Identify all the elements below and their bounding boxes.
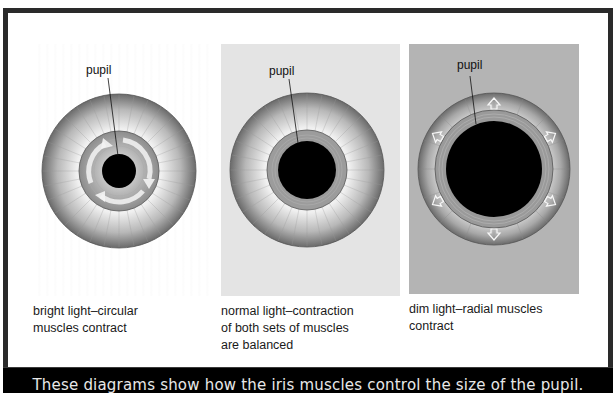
caption-bright-light: bright light–circular muscles contract (33, 303, 138, 337)
pupil-label: pupil (457, 58, 482, 72)
panel-normal-light: pupil (221, 44, 400, 296)
panel-bright-light: pupil (33, 44, 211, 296)
caption-bar: These diagrams show how the iris muscles… (3, 367, 613, 393)
eye-diagram-normal (221, 44, 400, 296)
pupil-label: pupil (86, 63, 111, 77)
figure-caption: These diagrams show how the iris muscles… (3, 376, 613, 393)
caption-normal-light: normal light–contraction of both sets of… (221, 303, 354, 354)
panel-dim-light: pupil (409, 44, 579, 294)
pupil-label: pupil (269, 64, 294, 78)
pupil-medium (278, 141, 336, 199)
eye-diagram-bright (33, 44, 211, 296)
caption-dim-light: dim light–radial muscles contract (409, 301, 542, 335)
pupil-large (446, 121, 542, 217)
pupil-small (102, 154, 136, 188)
eye-diagram-dim (409, 44, 579, 294)
